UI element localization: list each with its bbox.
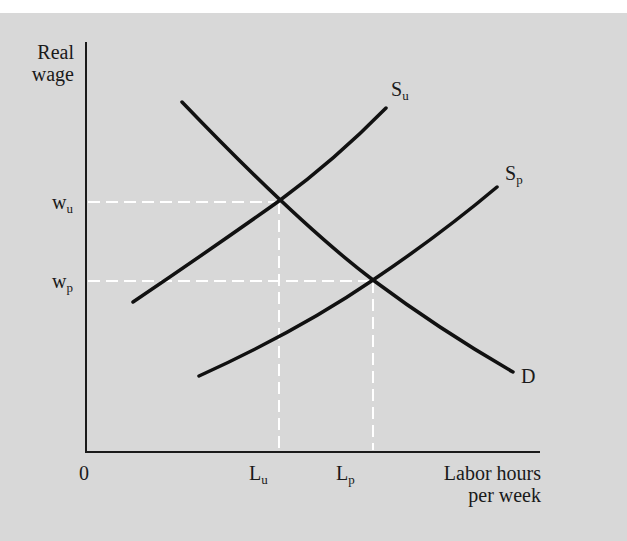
curve-label-d: D <box>521 365 535 387</box>
tick-lu: Lu <box>249 462 268 491</box>
supply-curve-su <box>133 108 386 302</box>
x-axis-label-line1: Labor hours <box>420 462 541 484</box>
demand-curve-d <box>182 102 513 372</box>
tick-origin: 0 <box>79 462 89 484</box>
tick-lp: Lp <box>336 462 355 491</box>
x-axis-label-line2: per week <box>420 484 541 506</box>
curve-label-sp: Sp <box>505 162 523 191</box>
chart-plot <box>0 0 627 541</box>
y-axis-label-line1: Real <box>20 41 74 63</box>
y-axis-label-line2: wage <box>20 63 74 85</box>
curve-label-su: Su <box>391 78 409 107</box>
tick-wu: wu <box>52 191 73 220</box>
x-axis-label: Labor hours per week <box>420 462 541 506</box>
tick-wp: wp <box>52 270 73 299</box>
y-axis-label: Real wage <box>20 41 74 85</box>
